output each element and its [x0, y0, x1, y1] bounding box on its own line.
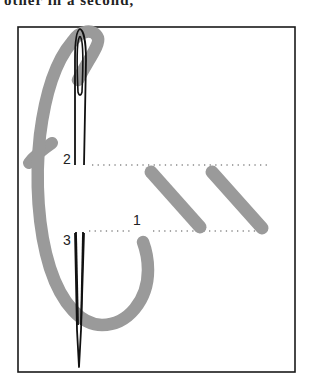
label-1: 1: [133, 212, 141, 228]
figure-frame: [18, 27, 295, 372]
label-2: 2: [63, 151, 71, 167]
thread-loop: [38, 32, 148, 325]
stitch-2: [212, 172, 262, 228]
label-3: 3: [63, 232, 71, 248]
stitch-1: [151, 172, 200, 227]
stitch-diagram: 2 3 1: [0, 0, 312, 382]
